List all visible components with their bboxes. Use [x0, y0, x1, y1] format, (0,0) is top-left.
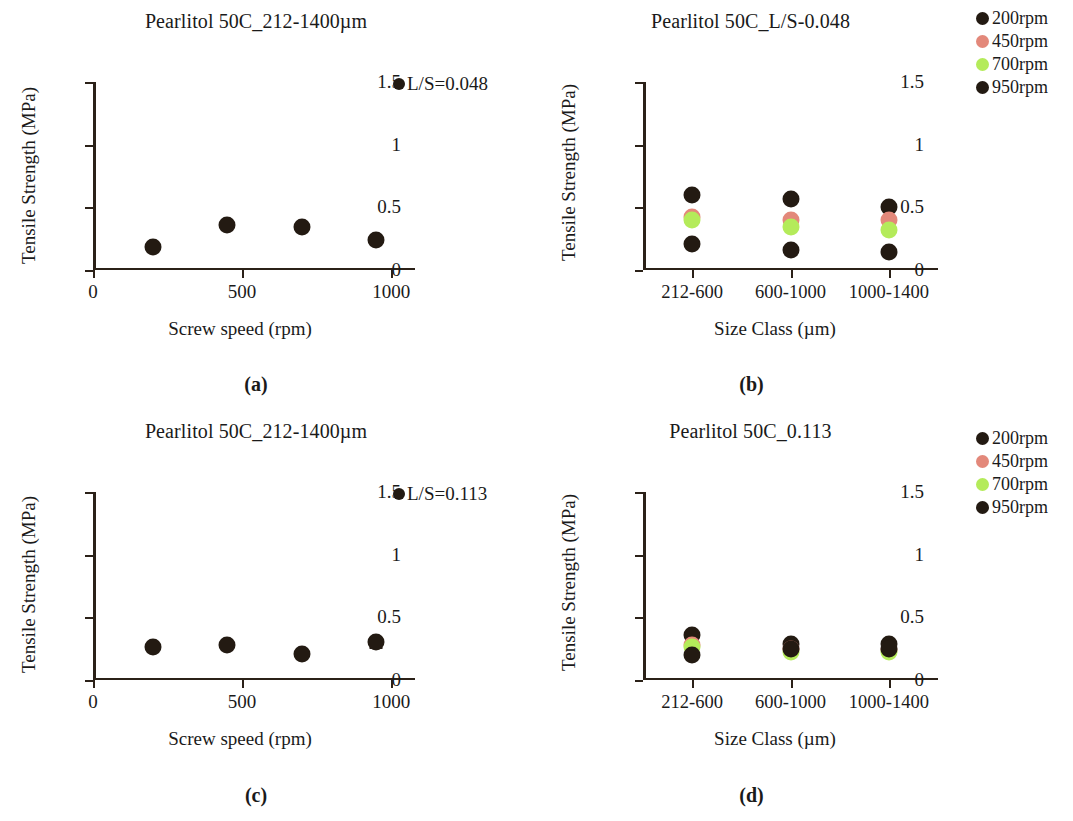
panel-d: Pearlitol 50C_0.113 Tensile Strength (MP…	[540, 410, 1073, 821]
panel-d-x-axis-label: Size Class (µm)	[610, 728, 940, 750]
panel-b-title: Pearlitol 50C_L/S-0.048	[488, 10, 1013, 33]
y-tick-mark	[85, 82, 93, 84]
panel-b-legend: 200rpm450rpm700rpm950rpm	[976, 8, 1048, 98]
data-point-marker	[144, 239, 161, 256]
x-tick-mark	[93, 680, 95, 688]
panel-c-plot-area: 00.511.505001000	[93, 492, 415, 680]
data-point-marker	[293, 219, 310, 236]
legend-item: 200rpm	[976, 8, 1048, 29]
panel-b-x-axis-label: Size Class (µm)	[610, 318, 940, 340]
panel-a-y-axis-label: Tensile Strength (MPa)	[18, 70, 40, 280]
panel-c-caption: (c)	[0, 784, 540, 807]
legend-item-label: 950rpm	[992, 497, 1048, 518]
legend-item-label: 700rpm	[992, 54, 1048, 75]
y-tick-mark	[85, 492, 93, 494]
data-point-marker	[293, 645, 310, 662]
panel-c-x-axis-label: Screw speed (rpm)	[60, 728, 420, 750]
panel-d-y-axis-label: Tensile Strength (MPa)	[558, 480, 580, 685]
legend-marker-icon	[976, 501, 989, 514]
panel-c: Pearlitol 50C_212-1400µm Tensile Strengt…	[0, 410, 540, 821]
legend-item-label: 950rpm	[992, 77, 1048, 98]
x-tick-mark	[889, 680, 891, 688]
panel-d-y-axis	[643, 492, 646, 680]
legend-item-label: 450rpm	[992, 451, 1048, 472]
y-tick-label: 1	[915, 544, 925, 566]
y-tick-label: 0	[915, 259, 925, 281]
y-tick-mark	[85, 555, 93, 557]
panel-c-legend-label: L/S=0.113	[407, 483, 487, 505]
y-tick-mark	[85, 207, 93, 209]
panel-a-legend-label: L/S=0.048	[407, 73, 488, 95]
y-tick-mark	[635, 555, 643, 557]
panel-c-title: Pearlitol 50C_212-1400µm	[0, 420, 540, 443]
y-tick-mark	[85, 680, 93, 682]
data-point-marker	[684, 235, 701, 252]
x-tick-mark	[93, 270, 95, 278]
panel-b: Pearlitol 50C_L/S-0.048 Tensile Strength…	[540, 0, 1073, 410]
legend-marker-icon	[976, 81, 989, 94]
panel-d-legend: 200rpm450rpm700rpm950rpm	[976, 428, 1048, 518]
x-tick-mark	[791, 270, 793, 278]
panel-c-x-axis	[93, 678, 415, 681]
data-point-marker	[880, 244, 897, 261]
legend-marker-icon	[976, 432, 989, 445]
data-point-marker	[782, 640, 799, 657]
x-tick-mark	[791, 680, 793, 688]
x-tick-mark	[242, 680, 244, 688]
y-tick-label: 0.5	[900, 196, 924, 218]
data-point-marker	[368, 231, 385, 248]
legend-marker-icon	[976, 58, 989, 71]
x-category-label: 212-600	[661, 692, 723, 713]
x-tick-label: 1000	[372, 281, 410, 303]
x-tick-mark	[692, 270, 694, 278]
legend-marker-icon	[976, 12, 989, 25]
x-category-label: 600-1000	[755, 692, 826, 713]
panel-d-plot-area: 00.511.5212-600600-10001000-1400	[643, 492, 938, 680]
y-tick-mark	[635, 492, 643, 494]
data-point-marker	[782, 190, 799, 207]
legend-item: 200rpm	[976, 428, 1048, 449]
panel-a-title: Pearlitol 50C_212-1400µm	[0, 10, 540, 33]
y-tick-mark	[635, 82, 643, 84]
x-tick-mark	[391, 680, 393, 688]
data-point-marker	[782, 241, 799, 258]
legend-marker-icon	[976, 35, 989, 48]
x-category-label: 1000-1400	[849, 692, 929, 713]
data-point-marker	[880, 640, 897, 657]
panel-b-y-axis-label: Tensile Strength (MPa)	[558, 70, 580, 275]
y-tick-label: 0.5	[900, 606, 924, 628]
panel-a-x-axis	[93, 268, 415, 271]
x-tick-label: 500	[228, 281, 257, 303]
x-tick-mark	[391, 270, 393, 278]
x-tick-label: 500	[228, 691, 257, 713]
y-tick-mark	[85, 145, 93, 147]
data-point-marker	[880, 221, 897, 238]
panel-d-title: Pearlitol 50C_0.113	[488, 420, 1013, 443]
legend-item: 450rpm	[976, 451, 1048, 472]
y-tick-label: 1	[915, 134, 925, 156]
panel-a-x-axis-label: Screw speed (rpm)	[60, 318, 420, 340]
legend-item: 950rpm	[976, 77, 1048, 98]
y-tick-label: 1.5	[900, 481, 924, 503]
data-point-marker	[684, 646, 701, 663]
y-tick-mark	[635, 680, 643, 682]
y-tick-label: 1	[392, 134, 402, 156]
legend-item: 700rpm	[976, 474, 1048, 495]
legend-marker-icon	[976, 455, 989, 468]
panel-a-plot-area: 00.511.505001000	[93, 82, 415, 270]
data-point-marker	[219, 636, 236, 653]
x-tick-mark	[692, 680, 694, 688]
legend-item-label: 200rpm	[992, 8, 1048, 29]
y-tick-label: 0.5	[377, 196, 401, 218]
x-category-label: 212-600	[661, 282, 723, 303]
x-tick-label: 0	[88, 691, 98, 713]
panel-b-y-axis	[643, 82, 646, 270]
data-point-marker	[219, 216, 236, 233]
x-category-label: 1000-1400	[849, 282, 929, 303]
y-tick-label: 0.5	[377, 606, 401, 628]
panel-a-y-axis	[93, 82, 96, 270]
legend-marker-icon	[976, 478, 989, 491]
data-point-marker	[684, 211, 701, 228]
x-tick-label: 1000	[372, 691, 410, 713]
y-tick-label: 1.5	[900, 71, 924, 93]
